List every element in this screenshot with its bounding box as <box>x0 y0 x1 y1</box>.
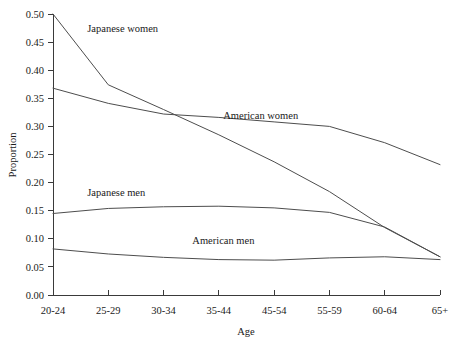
line-chart-svg: 0.000.050.100.150.200.250.300.350.400.45… <box>0 0 458 356</box>
x-axis-title: Age <box>237 326 255 337</box>
x-axis-tick-marks <box>53 290 440 295</box>
y-tick-label: 0.30 <box>26 121 44 132</box>
series-line-american-men <box>53 249 440 260</box>
x-tick-label: 65+ <box>432 305 449 316</box>
y-tick-label: 0.00 <box>26 290 44 301</box>
chart-figure: 0.000.050.100.150.200.250.300.350.400.45… <box>0 0 458 356</box>
series-inline-labels: Japanese womenAmerican womenJapanese men… <box>87 23 299 246</box>
series-label-american-women: American women <box>223 110 299 121</box>
x-axis-tick-labels: 20-2425-2930-3435-4445-5455-5960-6465+ <box>41 305 449 316</box>
y-axis-tick-labels: 0.000.050.100.150.200.250.300.350.400.45… <box>26 9 44 301</box>
y-tick-label: 0.45 <box>26 37 44 48</box>
y-tick-label: 0.05 <box>26 262 44 273</box>
series-line-japanese-men <box>53 206 440 257</box>
series-label-japanese-women: Japanese women <box>87 23 159 34</box>
series-line-japanese-women <box>53 14 440 257</box>
y-tick-label: 0.15 <box>26 205 44 216</box>
x-tick-label: 55-59 <box>317 305 342 316</box>
x-tick-label: 60-64 <box>372 305 397 316</box>
series-lines <box>53 14 440 260</box>
y-axis-title: Proportion <box>7 132 18 178</box>
y-axis-tick-marks <box>48 14 53 295</box>
y-tick-label: 0.35 <box>26 93 44 104</box>
series-label-american-men: American men <box>192 235 255 246</box>
x-tick-label: 35-44 <box>207 305 232 316</box>
y-tick-label: 0.25 <box>26 149 44 160</box>
y-tick-label: 0.40 <box>26 65 44 76</box>
x-tick-label: 25-29 <box>96 305 121 316</box>
series-line-american-women <box>53 88 440 164</box>
y-tick-label: 0.10 <box>26 233 44 244</box>
y-tick-label: 0.20 <box>26 177 44 188</box>
series-label-japanese-men: Japanese men <box>87 187 146 198</box>
x-tick-label: 45-54 <box>262 305 287 316</box>
x-tick-label: 20-24 <box>41 305 66 316</box>
y-tick-label: 0.50 <box>26 9 44 20</box>
x-tick-label: 30-34 <box>151 305 176 316</box>
